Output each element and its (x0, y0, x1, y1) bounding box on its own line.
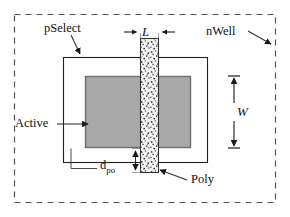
label-poly: Poly (191, 173, 214, 186)
label-nwell: nWell (206, 25, 236, 38)
poly-strip (141, 39, 159, 173)
label-pselect: pSelect (44, 22, 81, 35)
label-dpo: dpo (100, 159, 115, 175)
leader-poly (160, 170, 187, 180)
leader-nwell (248, 31, 271, 44)
active-region (86, 77, 191, 148)
mosfet-layout-diagram: pSelect nWell Active Poly L W dpo (0, 0, 290, 217)
label-width-w: W (237, 105, 248, 118)
dimension-l (124, 32, 175, 39)
label-dpo-subscript: po (106, 165, 115, 175)
label-length-l: L (142, 25, 149, 38)
leader-pselect (71, 35, 80, 54)
label-active: Active (15, 117, 48, 130)
